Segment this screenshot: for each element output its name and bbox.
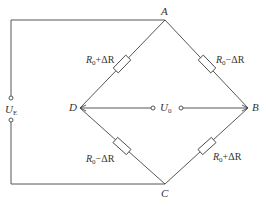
output-terminal-left — [151, 106, 155, 110]
node-label-A: A — [161, 6, 168, 17]
resistor-label-DC: R0−ΔR — [86, 154, 114, 166]
resistor-label-BC: R0+ΔR — [213, 152, 241, 164]
node-label-B: B — [252, 102, 259, 113]
resistor-AD — [113, 55, 131, 73]
resistor-label-AD: R0+ΔR — [86, 55, 114, 67]
resistor-AB — [198, 55, 216, 73]
resistor-label-AB: R0−ΔR — [216, 55, 244, 67]
node-label-D: D — [69, 102, 77, 113]
supply-label: UE — [5, 104, 17, 117]
output-label: U0 — [160, 102, 171, 115]
supply-terminal-top — [9, 96, 13, 100]
bridge-circuit-diagram — [0, 0, 266, 212]
node-label-C: C — [161, 188, 168, 199]
resistor-DC — [113, 137, 131, 154]
output-terminal-right — [179, 106, 183, 110]
supply-terminal-bottom — [9, 118, 13, 122]
